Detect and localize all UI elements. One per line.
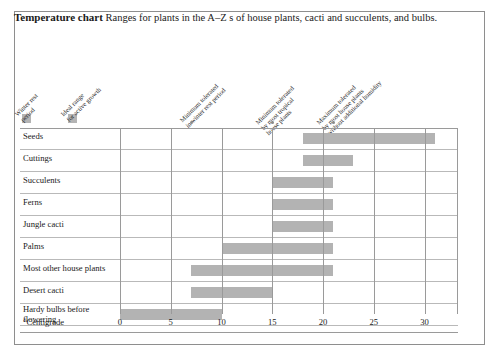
bar-most-other-house-plants [191,265,333,276]
column-marker-dot-min-tolerated-tropical [271,121,274,124]
row-label: Desert cacti [23,286,118,296]
table-row-cuttings: Cuttings [20,150,458,172]
row-label: Jungle cacti [23,220,118,230]
x-tick-label-10: 10 [217,317,226,327]
x-tick-label-5: 5 [169,317,173,327]
table-row-most-other-house-plants: Most other house plants [20,260,458,282]
row-label: Most other house plants [23,264,118,274]
x-tick-label-25: 25 [369,317,378,327]
bar-seeds [303,133,435,144]
x-tick-label-30: 30 [420,317,429,327]
page-title: Temperature chart Ranges for plants in t… [14,11,454,24]
table-row-desert-cacti: Desert cacti [20,282,458,304]
title-subtitle: Ranges for plants in the A–Z s of house … [103,12,437,23]
table-row-palms: Palms [20,238,458,260]
bar-jungle-cacti [272,221,333,232]
bar-succulents [272,177,333,188]
bar-ferns [272,199,333,210]
bar-desert-cacti [191,287,272,298]
row-label: Succulents [23,176,118,186]
row-label: Ferns [23,198,118,208]
chart-table: SeedsCuttingsSucculentsFernsJungle cacti… [20,128,479,335]
x-tick-label-20: 20 [319,317,328,327]
x-tick-label-15: 15 [268,317,277,327]
table-row-jungle-cacti: Jungle cacti [20,216,458,238]
axis-bottom-rule [20,332,458,333]
column-marker-dot-min-tolerated-winter-rest [190,121,193,124]
bar-cuttings [303,155,354,166]
row-label: Seeds [23,132,118,142]
x-axis: °Centigrade 051015202530 [20,314,458,333]
table-row-seeds: Seeds [20,128,458,150]
x-tick-label-0: 0 [118,317,122,327]
column-marker-dot-max-tolerated-no-humidity [332,121,335,124]
row-label: Palms [23,242,118,252]
title-strong: Temperature chart [14,11,103,23]
bar-palms [222,243,334,254]
table-row-succulents: Succulents [20,172,458,194]
axis-unit-label: °Centigrade [23,317,64,327]
row-label: Cuttings [23,154,118,164]
table-row-ferns: Ferns [20,194,458,216]
